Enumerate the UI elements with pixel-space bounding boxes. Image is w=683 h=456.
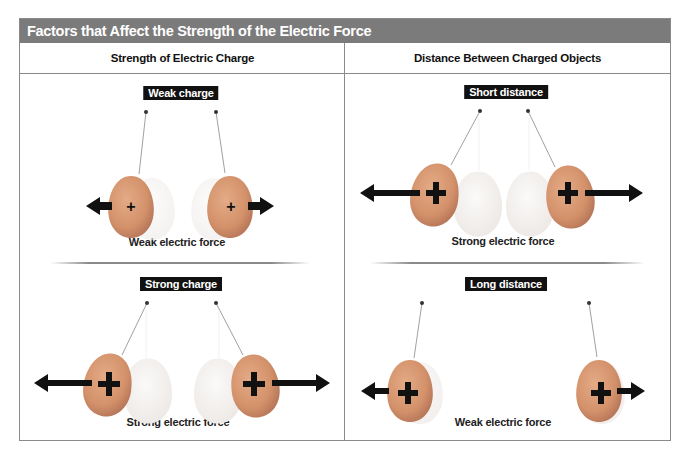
svg-text:+: + bbox=[126, 198, 135, 215]
panel-weak-charge: + + bbox=[86, 110, 274, 240]
panel-short-distance bbox=[360, 109, 643, 237]
panel-long-distance bbox=[361, 301, 645, 424]
panel-strong-charge bbox=[34, 301, 330, 424]
arrow-right-icon bbox=[272, 374, 330, 392]
arrow-left-icon bbox=[361, 382, 389, 400]
svg-text:+: + bbox=[226, 198, 235, 215]
arrow-left-icon bbox=[86, 197, 112, 215]
balloon-illustrations: + + bbox=[0, 0, 683, 456]
